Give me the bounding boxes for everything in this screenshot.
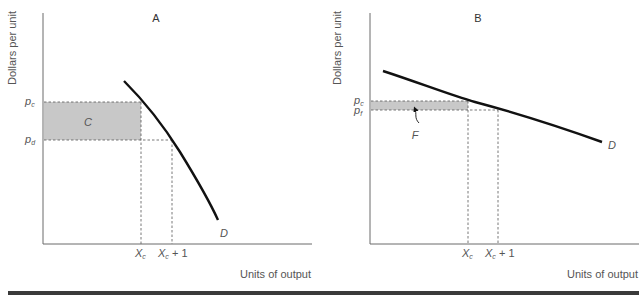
panel-a-xc-label: Xc (134, 247, 146, 260)
panel-a-curve-d-label: D (220, 227, 228, 239)
panel-b-x-axis-label: Units of output (567, 268, 638, 280)
panel-a-xc-plus-1-label: Xc + 1 (157, 247, 188, 260)
panel-b-guide-lines (371, 101, 498, 244)
panel-a-price-pc-label: pc (24, 95, 35, 108)
panel-b-xc-plus-1-label: Xc + 1 (484, 247, 515, 260)
panel-a-price-pd-label: pd (24, 133, 36, 146)
panel-b-y-axis-label: Dollars per unit (331, 11, 343, 85)
panel-a-demand-curve (124, 81, 218, 220)
panel-a-y-axis-label: Dollars per unit (6, 11, 18, 85)
panel-a-area-c-label: C (84, 116, 92, 128)
panel-a: A Dollars per unit pc pd C D Xc Xc + 1 U… (6, 11, 312, 280)
panel-b-xc-label: Xc (461, 247, 473, 260)
panel-b-area-f-label: F (412, 129, 420, 141)
panel-a-title: A (152, 12, 160, 24)
panel-a-x-axis-label: Units of output (240, 268, 311, 280)
panel-b-curve-d-label: D (608, 139, 616, 151)
figure-canvas: A Dollars per unit pc pd C D Xc Xc + 1 U… (0, 0, 639, 300)
bottom-rule (8, 291, 639, 295)
panel-b: B Dollars per unit pc pf F D Xc Xc + 1 U… (331, 11, 639, 280)
panel-b-arrow-icon (415, 109, 419, 123)
panel-b-title: B (474, 12, 481, 24)
panel-b-shaded-area-f (371, 101, 468, 110)
panel-a-shaded-area-c (44, 102, 141, 140)
